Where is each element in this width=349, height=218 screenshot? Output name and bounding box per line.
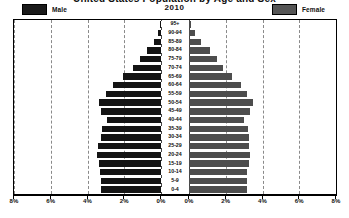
bar-male-80-84[interactable] (147, 47, 161, 53)
bar-female-45-49[interactable] (189, 108, 250, 114)
age-group-label-25-29: 25-29 (161, 143, 189, 148)
bar-female-90-94[interactable] (189, 30, 195, 36)
age-group-label-30-34: 30-34 (161, 134, 189, 139)
bar-female-65-69[interactable] (189, 73, 232, 79)
age-group-label-35-39: 35-39 (161, 126, 189, 131)
bar-female-20-24[interactable] (189, 152, 250, 158)
age-group-label-20-24: 20-24 (161, 152, 189, 157)
plot-area: 95+90-9485-8980-8475-7970-7465-6960-6455… (13, 19, 337, 195)
bar-female-95+[interactable] (189, 21, 191, 27)
bar-male-35-39[interactable] (102, 126, 161, 132)
age-group-label-55-59: 55-59 (161, 91, 189, 96)
age-group-label-10-14: 10-14 (161, 169, 189, 174)
bar-female-40-44[interactable] (189, 117, 244, 123)
age-group-label-95+: 95+ (161, 21, 189, 26)
x-axis-tick-label-3: 2% (120, 198, 129, 204)
age-group-label-40-44: 40-44 (161, 117, 189, 122)
age-group-label-0-4: 0-4 (161, 187, 189, 192)
population-pyramid-chart: United States Population by Age and Sex … (0, 0, 349, 218)
bar-male-85-89[interactable] (154, 39, 161, 45)
bar-male-45-49[interactable] (101, 108, 161, 114)
bar-male-0-4[interactable] (101, 186, 161, 192)
bar-female-30-34[interactable] (189, 134, 249, 140)
bar-female-5-9[interactable] (189, 178, 247, 184)
bar-male-20-24[interactable] (97, 152, 161, 158)
age-group-label-75-79: 75-79 (161, 56, 189, 61)
x-axis (13, 195, 337, 196)
bar-male-60-64[interactable] (113, 82, 161, 88)
bar-female-50-54[interactable] (189, 99, 253, 105)
bar-female-15-19[interactable] (189, 160, 249, 166)
age-group-label-70-74: 70-74 (161, 65, 189, 70)
x-axis-tick-label-6: 2% (221, 198, 230, 204)
bar-male-70-74[interactable] (133, 65, 161, 71)
bar-female-85-89[interactable] (189, 39, 201, 45)
bar-male-65-69[interactable] (123, 73, 161, 79)
legend-swatch-female-icon (272, 4, 297, 15)
bar-male-40-44[interactable] (107, 117, 161, 123)
age-group-label-45-49: 45-49 (161, 108, 189, 113)
bar-male-50-54[interactable] (99, 99, 161, 105)
legend-label-female: Female (302, 6, 325, 13)
bar-rows: 95+90-9485-8980-8475-7970-7465-6960-6455… (14, 20, 336, 194)
bar-female-0-4[interactable] (189, 186, 247, 192)
age-group-label-15-19: 15-19 (161, 161, 189, 166)
x-axis-tick-label-8: 6% (295, 198, 304, 204)
x-axis-tick-label-0: 8% (10, 198, 19, 204)
age-group-label-60-64: 60-64 (161, 82, 189, 87)
bar-male-5-9[interactable] (101, 178, 161, 184)
bar-male-75-79[interactable] (140, 56, 161, 62)
x-axis-tick-label-4: 0% (157, 198, 166, 204)
age-group-label-80-84: 80-84 (161, 47, 189, 52)
gridline-right-8 (336, 20, 337, 194)
x-axis-tick-label-5: 0% (185, 198, 194, 204)
bar-female-75-79[interactable] (189, 56, 217, 62)
bar-female-80-84[interactable] (189, 47, 210, 53)
age-group-label-50-54: 50-54 (161, 100, 189, 105)
bar-female-35-39[interactable] (189, 126, 248, 132)
chart-legend: Male 2010 Female (0, 3, 349, 16)
age-group-label-65-69: 65-69 (161, 74, 189, 79)
bar-male-30-34[interactable] (101, 134, 161, 140)
x-axis-tick-label-2: 4% (83, 198, 92, 204)
bar-male-15-19[interactable] (99, 160, 161, 166)
bar-female-25-29[interactable] (189, 143, 249, 149)
bar-male-10-14[interactable] (100, 169, 161, 175)
x-axis-labels: 8%6%4%2%0%0%2%4%6%8% (0, 198, 349, 212)
bar-female-10-14[interactable] (189, 169, 247, 175)
bar-male-25-29[interactable] (98, 143, 161, 149)
age-group-label-90-94: 90-94 (161, 30, 189, 35)
age-group-label-5-9: 5-9 (161, 178, 189, 183)
x-axis-tick-label-7: 4% (258, 198, 267, 204)
bar-male-55-59[interactable] (106, 91, 161, 97)
x-axis-tick-label-1: 6% (46, 198, 55, 204)
x-axis-tick-label-9: 8% (332, 198, 341, 204)
legend-item-female[interactable]: Female (272, 3, 325, 16)
age-group-label-85-89: 85-89 (161, 39, 189, 44)
bar-female-55-59[interactable] (189, 91, 247, 97)
bar-female-70-74[interactable] (189, 65, 223, 71)
bar-female-60-64[interactable] (189, 82, 241, 88)
